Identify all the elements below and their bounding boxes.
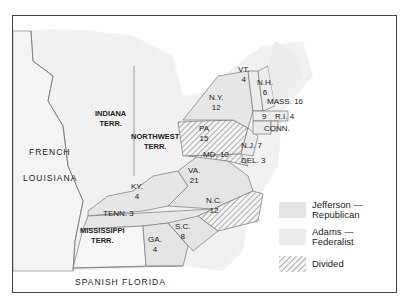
state-label-mass: MASS. 16 (267, 97, 303, 107)
state-label-conn: CONN. (264, 124, 290, 134)
republican-swatch-icon (279, 202, 306, 218)
state-label-pa: PA15 (199, 124, 209, 144)
legend-divided: Divided (279, 256, 344, 272)
divided-hatch-icon (279, 256, 306, 272)
state-label-md: MD. 10 (203, 150, 229, 160)
state-label-nh: N.H.6 (257, 78, 273, 98)
state-label-conn-votes: 9 (262, 112, 266, 122)
state-label-nc: N.C.12 (206, 196, 222, 216)
state-label-va: VA.21 (188, 166, 200, 186)
state-label-ny: N.Y.12 (209, 93, 224, 113)
indiana-territory-label: INDIANA TERR. (95, 109, 126, 129)
state-label-tenn: TENN. 3 (103, 209, 134, 219)
northwest-territory-label: NORTHWEST TERR. (131, 132, 179, 152)
state-label-vt: VT.4 (238, 65, 250, 85)
state-label-ri: R.I. 4 (275, 112, 294, 122)
federalist-swatch-icon (279, 229, 306, 245)
state-label-ga: GA.4 (148, 235, 162, 255)
state-label-sc: S.C.8 (175, 222, 191, 242)
state-label-nj: N.J. 7 (241, 141, 262, 151)
louisiana-label: LOUISIANA (23, 173, 77, 183)
state-label-ky: KY.4 (131, 182, 143, 202)
legend-federalist: Adams —Federalist (279, 227, 354, 247)
map-frame: INDIANA TERR. NORTHWEST TERR. FRENCH LOU… (12, 15, 397, 293)
french-label: FRENCH (29, 147, 70, 157)
state-label-del: DEL. 3 (241, 156, 265, 166)
mississippi-territory-label: MISSISSIPPI TERR. (80, 226, 125, 246)
legend-republican: Jefferson —Republican (279, 200, 363, 220)
spanish-florida-label: SPANISH FLORIDA (75, 277, 166, 287)
